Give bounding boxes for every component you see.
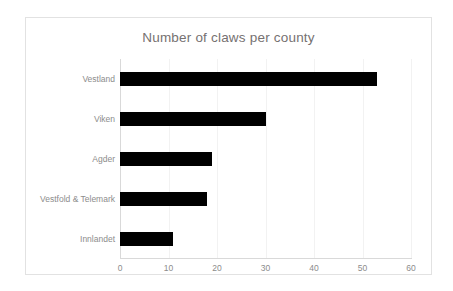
category-label: Innlandet bbox=[80, 232, 115, 246]
bar[interactable] bbox=[120, 192, 207, 206]
gridline-60 bbox=[411, 59, 412, 258]
bar[interactable] bbox=[120, 232, 173, 246]
bar[interactable] bbox=[120, 152, 212, 166]
bar-row: Vestland bbox=[120, 59, 411, 99]
bar[interactable] bbox=[120, 72, 377, 86]
plot-area: VestlandVikenAgderVestfold & TelemarkInn… bbox=[120, 59, 411, 258]
chart-canvas: Number of claws per county VestlandViken… bbox=[0, 0, 453, 291]
chart-title: Number of claws per county bbox=[26, 30, 431, 45]
x-axis-line bbox=[120, 258, 412, 259]
x-tick-label: 60 bbox=[406, 263, 415, 273]
x-tick-label: 50 bbox=[358, 263, 367, 273]
bar-row: Viken bbox=[120, 99, 411, 139]
x-tick-label: 30 bbox=[261, 263, 270, 273]
bar[interactable] bbox=[120, 112, 266, 126]
category-label: Agder bbox=[92, 152, 115, 166]
bar-row: Innlandet bbox=[120, 219, 411, 259]
x-tick-label: 20 bbox=[212, 263, 221, 273]
x-tick-label: 40 bbox=[309, 263, 318, 273]
bar-row: Vestfold & Telemark bbox=[120, 179, 411, 219]
chart-frame[interactable]: Number of claws per county VestlandViken… bbox=[25, 17, 432, 275]
x-tick-label: 10 bbox=[164, 263, 173, 273]
bar-row: Agder bbox=[120, 139, 411, 179]
category-label: Viken bbox=[94, 112, 115, 126]
x-tick-label: 0 bbox=[118, 263, 123, 273]
category-label: Vestfold & Telemark bbox=[40, 192, 115, 206]
category-label: Vestland bbox=[82, 72, 115, 86]
